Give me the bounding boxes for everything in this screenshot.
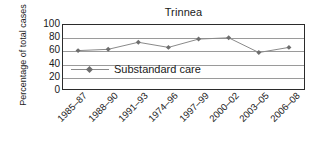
y-tick-label: 80: [20, 32, 60, 42]
chart-title: Trinnea: [62, 6, 305, 18]
chart-figure: Trinnea Percentage of total cases 020406…: [0, 0, 319, 146]
y-tick-label: 40: [20, 59, 60, 69]
legend-line-marker-icon: [71, 65, 109, 74]
data-point-marker: [106, 47, 111, 52]
y-tick-label: 100: [20, 19, 60, 29]
chart-legend: Substandard care: [71, 63, 201, 75]
y-tick-label: 60: [20, 45, 60, 55]
data-point-marker: [196, 37, 201, 42]
y-tick-label: 0: [20, 85, 60, 95]
series-plot: [63, 25, 304, 89]
legend-label-substandard-care: Substandard care: [114, 63, 201, 75]
data-point-marker: [226, 35, 231, 40]
data-point-marker: [166, 45, 171, 50]
y-tick-label: 20: [20, 72, 60, 82]
data-point-marker: [136, 40, 141, 45]
plot-area: Substandard care: [62, 24, 305, 90]
data-point-marker: [286, 45, 291, 50]
x-axis-tick-labels: 1985–871988–901991–931974–961997–992000–…: [62, 90, 305, 146]
data-point-marker: [256, 50, 261, 55]
data-point-marker: [76, 48, 81, 53]
y-axis-tick-labels: 020406080100: [20, 19, 60, 93]
